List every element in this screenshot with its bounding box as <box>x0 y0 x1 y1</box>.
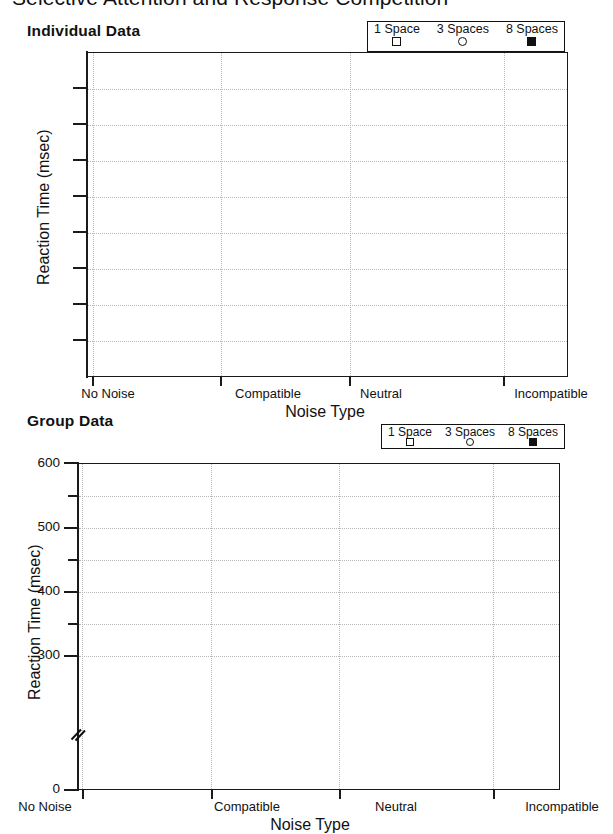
gridline-vertical <box>504 53 505 376</box>
gridline-horizontal <box>88 269 567 270</box>
filled-square-marker-icon <box>527 37 536 46</box>
x-axis-tick <box>211 790 213 799</box>
x-axis-label-incompatible: Incompatible <box>525 799 599 814</box>
gridline-horizontal <box>88 197 567 198</box>
plot-area-group <box>79 463 560 790</box>
gridline-horizontal <box>79 560 559 561</box>
x-axis-label-neutral: Neutral <box>360 386 402 401</box>
gridline-vertical <box>211 464 212 789</box>
legend-label: 8 Spaces <box>506 23 558 36</box>
gridline-horizontal <box>79 496 559 497</box>
legend-individual: 1 Space 3 Spaces 8 Spaces <box>367 21 565 52</box>
legend-label: 3 Spaces <box>437 23 489 36</box>
y-axis-tick-600 <box>64 462 77 464</box>
gridline-vertical <box>493 464 494 789</box>
open-square-marker-icon <box>406 438 414 446</box>
x-axis-label-compatible: Compatible <box>214 799 280 814</box>
legend-label: 8 Spaces <box>508 426 558 438</box>
gridline-horizontal <box>88 341 567 342</box>
y-axis-label-600: 600 <box>18 455 60 470</box>
legend-label: 3 Spaces <box>445 426 495 438</box>
legend-item-8-spaces: 8 Spaces <box>506 23 558 46</box>
y-axis-tick-minor <box>68 623 77 625</box>
x-axis-label-compatible: Compatible <box>235 386 301 401</box>
y-axis-tick-300 <box>64 655 77 657</box>
y-axis-tick-minor <box>68 495 77 497</box>
x-axis-label-neutral: Neutral <box>375 799 417 814</box>
legend-group: 1 Space 3 Spaces 8 Spaces <box>381 424 565 449</box>
x-axis-tick <box>493 790 495 799</box>
open-circle-marker-icon <box>458 37 467 46</box>
gridline-horizontal <box>79 656 559 657</box>
plot-area-individual <box>88 52 568 377</box>
x-axis-label-no-noise: No Noise <box>18 799 71 814</box>
gridline-vertical <box>221 53 222 376</box>
gridline-vertical <box>339 464 340 789</box>
y-axis-tick <box>73 231 86 233</box>
y-axis-tick-400 <box>64 591 77 593</box>
x-axis-tick <box>339 790 341 799</box>
legend-label: 1 Space <box>388 426 432 438</box>
x-axis-title-group: Noise Type <box>270 816 350 834</box>
y-axis-label-0: 0 <box>18 781 60 796</box>
legend-item-3-spaces: 3 Spaces <box>437 23 489 46</box>
filled-square-marker-icon <box>529 438 537 446</box>
gridline-vertical <box>350 53 351 376</box>
gridline-horizontal <box>79 624 559 625</box>
y-axis-tick <box>73 87 86 89</box>
y-axis-tick <box>73 303 86 305</box>
gridline-horizontal <box>88 125 567 126</box>
gridline-vertical <box>93 53 94 376</box>
legend-item-3-spaces: 3 Spaces <box>445 426 495 446</box>
page-title: Selective Attention and Response Competi… <box>12 0 448 10</box>
legend-row: 1 Space 3 Spaces 8 Spaces <box>374 23 558 50</box>
legend-item-1-space: 1 Space <box>388 426 432 446</box>
gridline-horizontal <box>88 161 567 162</box>
y-axis-tick <box>73 159 86 161</box>
x-axis-tick <box>220 377 222 386</box>
x-axis-tick <box>82 790 84 799</box>
x-axis-tick <box>503 377 505 386</box>
y-axis-tick-500 <box>64 527 77 529</box>
gridline-horizontal <box>79 528 559 529</box>
y-axis-tick <box>73 195 86 197</box>
open-square-marker-icon <box>392 37 401 46</box>
y-axis-title-individual: Reaction Time (msec) <box>35 129 53 285</box>
gridline-horizontal <box>79 592 559 593</box>
y-axis-title-group: Reaction Time (msec) <box>26 544 44 700</box>
panel-title-group: Group Data <box>27 412 113 430</box>
x-axis-tick <box>92 377 94 386</box>
y-axis-tick <box>73 267 86 269</box>
gridline-horizontal <box>88 305 567 306</box>
y-axis-label-500: 500 <box>18 519 60 534</box>
axis-break-icon <box>70 728 86 742</box>
gridline-horizontal <box>88 233 567 234</box>
x-axis-label-incompatible: Incompatible <box>514 386 588 401</box>
x-axis-title-individual: Noise Type <box>285 403 365 421</box>
panel-title-individual: Individual Data <box>27 22 140 40</box>
legend-item-1-space: 1 Space <box>374 23 420 46</box>
x-axis-label-no-noise: No Noise <box>81 386 134 401</box>
y-axis-tick-0 <box>64 789 77 791</box>
open-circle-marker-icon <box>466 438 474 446</box>
gridline-horizontal <box>88 89 567 90</box>
y-axis-label-300: 300 <box>18 647 60 662</box>
legend-row: 1 Space 3 Spaces 8 Spaces <box>388 426 558 447</box>
y-axis-tick <box>73 123 86 125</box>
y-axis-label-400: 400 <box>18 583 60 598</box>
x-axis-tick <box>349 377 351 386</box>
legend-item-8-spaces: 8 Spaces <box>508 426 558 446</box>
y-axis-tick-minor <box>68 559 77 561</box>
y-axis-tick <box>73 339 86 341</box>
legend-label: 1 Space <box>374 23 420 36</box>
